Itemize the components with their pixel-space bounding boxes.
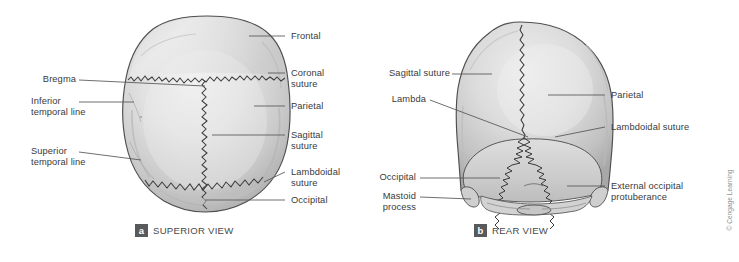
label-sagittal-suture-rear: Sagittal suture bbox=[370, 68, 450, 79]
copyright-notice: © Cengage Learning bbox=[723, 150, 735, 250]
label-frontal-superior: Frontal bbox=[291, 31, 321, 42]
label-superior-temporal-line: Superior temporal line bbox=[31, 146, 86, 168]
label-external-occipital-protuberance: External occipital protuberance bbox=[611, 181, 683, 203]
highlight bbox=[497, 44, 593, 136]
label-lambdoidal-suture-rear: Lambdoidal suture bbox=[611, 122, 689, 133]
label-sagittal-suture-superior: Sagittal suture bbox=[291, 130, 323, 152]
panel-badge-b: b bbox=[474, 224, 487, 237]
foramen-magnum bbox=[517, 205, 551, 215]
label-mastoid-process: Mastoid process bbox=[370, 191, 416, 213]
label-lambda: Lambda bbox=[370, 94, 426, 105]
label-occipital-superior: Occipital bbox=[291, 195, 328, 206]
foramen-mark bbox=[140, 116, 142, 118]
caption-text-b: REAR VIEW bbox=[492, 225, 548, 236]
label-parietal-superior: Parietal bbox=[291, 101, 323, 112]
label-parietal-rear: Parietal bbox=[611, 90, 643, 101]
caption-text-a: SUPERIOR VIEW bbox=[153, 225, 234, 236]
label-inferior-temporal-line: Inferior temporal line bbox=[31, 96, 86, 118]
panel-badge-a: a bbox=[135, 224, 148, 237]
caption-panel-b: b REAR VIEW bbox=[474, 224, 548, 237]
label-lambdoidal-suture-superior: Lambdoidal suture bbox=[291, 167, 340, 189]
occipital-bone-rear bbox=[463, 139, 602, 202]
label-occipital-rear: Occipital bbox=[370, 172, 416, 183]
anatomy-figure: Frontal Coronal suture Parietal Sagittal… bbox=[0, 0, 739, 262]
label-bregma: Bregma bbox=[8, 74, 76, 85]
label-coronal-suture-superior: Coronal suture bbox=[291, 68, 324, 90]
copyright-text: © Cengage Learning bbox=[726, 170, 733, 231]
caption-panel-a: a SUPERIOR VIEW bbox=[135, 224, 234, 237]
panel-b-skull bbox=[420, 22, 613, 229]
panel-a-skull bbox=[79, 16, 290, 212]
